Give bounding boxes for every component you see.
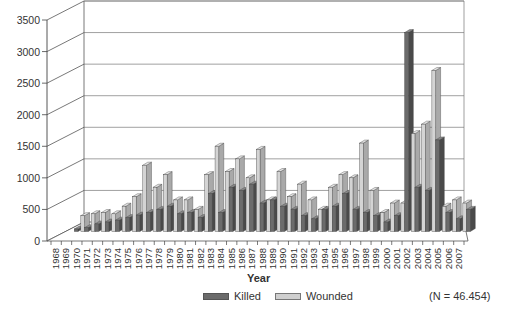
legend-label-killed: Killed <box>234 290 261 302</box>
legend-label-wounded: Wounded <box>306 290 353 302</box>
side-gridline <box>47 1 84 20</box>
legend-swatch-killed <box>203 293 229 300</box>
y-tick-label: 500 <box>22 203 40 215</box>
side-gridline <box>47 96 84 115</box>
x-axis-title: Year <box>247 272 270 284</box>
legend-item-killed: Killed <box>203 290 261 302</box>
side-gridline <box>47 64 84 83</box>
chart: 0500100015002000250030003500196819691970… <box>0 0 518 316</box>
side-gridline <box>47 33 84 52</box>
legend: Killed Wounded <box>203 290 367 302</box>
y-tick-label: 0 <box>34 235 40 247</box>
bar-killed <box>467 206 476 231</box>
legend-swatch-wounded <box>275 293 301 300</box>
x-tick-label: 2007 <box>453 248 464 269</box>
y-tick-label: 3000 <box>17 46 41 58</box>
bar-chart-svg: 0500100015002000250030003500196819691970… <box>0 0 518 316</box>
sample-size-annotation: (N = 46.454) <box>429 290 490 302</box>
y-tick-label: 3500 <box>17 14 41 26</box>
y-tick-label: 1500 <box>17 140 41 152</box>
legend-item-wounded: Wounded <box>275 290 353 302</box>
side-gridline <box>47 159 84 178</box>
y-tick-label: 2500 <box>17 77 41 89</box>
y-tick-label: 1000 <box>17 172 41 184</box>
side-gridline <box>47 127 84 146</box>
y-tick-label: 2000 <box>17 109 41 121</box>
side-gridline <box>47 190 84 209</box>
